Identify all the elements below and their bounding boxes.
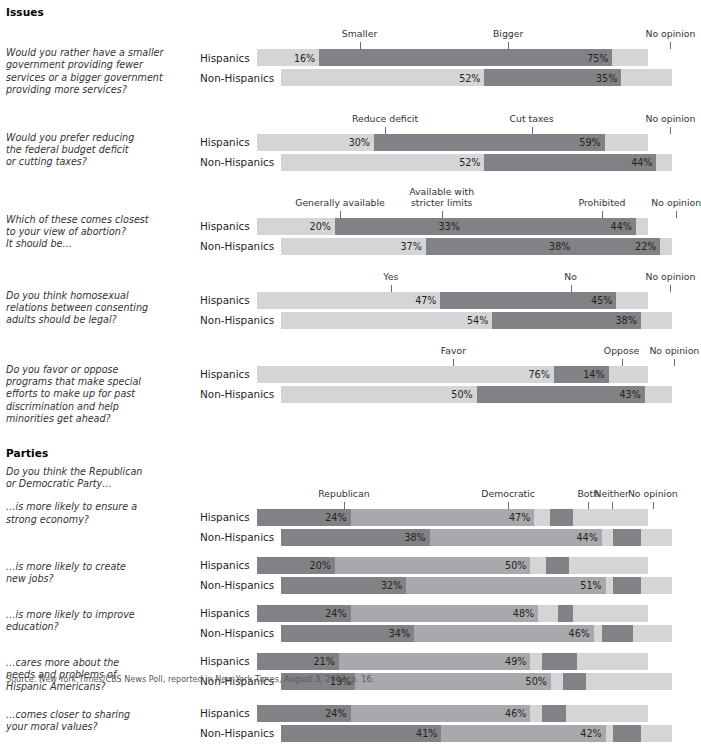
chart-row: Non-Hispanics52%44% bbox=[200, 154, 616, 171]
bar-segment bbox=[538, 605, 558, 622]
stacked-bar: 30%59% bbox=[257, 134, 648, 151]
segment-value: 43% bbox=[619, 389, 640, 400]
category-label: Reduce deficit bbox=[352, 114, 418, 125]
chart-column: YesNoNo opinionHispanics47%45%Non-Hispan… bbox=[200, 268, 616, 329]
chart-row: Non-Hispanics52%35% bbox=[200, 69, 616, 86]
source-footnote: Source: New York Times/CBS News Poll, re… bbox=[6, 674, 374, 684]
row-label: Hispanics bbox=[200, 511, 257, 523]
bar-segment: 21% bbox=[257, 653, 339, 670]
spacer bbox=[0, 426, 622, 439]
spacer bbox=[0, 642, 622, 651]
category-tick bbox=[676, 211, 677, 218]
bar-segment bbox=[563, 673, 586, 690]
category-tick bbox=[588, 502, 589, 509]
category-tick bbox=[453, 359, 454, 366]
bar-segment bbox=[606, 577, 614, 594]
segment-value: 35% bbox=[596, 72, 617, 83]
segment-value: 20% bbox=[310, 221, 331, 232]
bar-segment bbox=[606, 725, 614, 742]
category-tick bbox=[391, 285, 392, 292]
chart-column: Generally availableAvailable withstricte… bbox=[200, 184, 616, 255]
question-block: …comes closer to sharingyour moral value… bbox=[0, 703, 622, 742]
spacer bbox=[0, 546, 622, 555]
question-block: Would you rather have a smallergovernmen… bbox=[0, 25, 622, 97]
chart-column: FavorOpposeNo opinionHispanics76%14%Non-… bbox=[200, 342, 616, 403]
bar-segment bbox=[636, 218, 648, 235]
segment-value: 44% bbox=[576, 532, 597, 543]
segment-value: 34% bbox=[389, 628, 410, 639]
category-tick bbox=[360, 42, 361, 49]
question-block: Do you think homosexualrelations between… bbox=[0, 268, 622, 329]
category-header: YesNoNo opinion bbox=[200, 268, 616, 292]
chart-row: Hispanics47%45% bbox=[200, 292, 616, 309]
bar-segment bbox=[558, 605, 574, 622]
stacked-bar: 34%46% bbox=[281, 625, 672, 642]
row-label: Non-Hispanics bbox=[200, 156, 281, 168]
chart-row: Non-Hispanics38%44% bbox=[200, 529, 616, 546]
stacked-bar: 24%46% bbox=[257, 705, 648, 722]
bar-segment: 22% bbox=[574, 238, 660, 255]
segment-value: 59% bbox=[579, 137, 600, 148]
bar-segment bbox=[641, 577, 672, 594]
bar-segment bbox=[641, 725, 672, 742]
bar-segment: 50% bbox=[335, 557, 531, 574]
section-heading-parties: Parties bbox=[6, 447, 622, 459]
chart-column: SmallerBiggerNo opinionHispanics16%75%No… bbox=[200, 25, 616, 86]
category-tick bbox=[674, 359, 675, 366]
stacked-bar: 16%75% bbox=[257, 49, 648, 66]
segment-value: 38% bbox=[549, 241, 570, 252]
bar-segment: 33% bbox=[335, 218, 464, 235]
chart-column: RepublicanDemocraticBothNeitherNo opinio… bbox=[200, 466, 616, 546]
bar-segment: 59% bbox=[374, 134, 605, 151]
question-left-column: …comes closer to sharingyour moral value… bbox=[0, 703, 200, 734]
bar-segment: 38% bbox=[492, 312, 641, 329]
category-label: Smaller bbox=[342, 29, 377, 40]
question-left-column: …cares more about theneeds and problems … bbox=[0, 651, 200, 694]
question-text-q-moral-values: …comes closer to sharingyour moral value… bbox=[0, 709, 200, 734]
stacked-bar: 21%49% bbox=[257, 653, 648, 670]
spacer bbox=[0, 490, 200, 501]
question-text-q-gov-size: Would you rather have a smallergovernmen… bbox=[0, 47, 200, 97]
segment-value: 37% bbox=[400, 241, 421, 252]
chart-row: Hispanics76%14% bbox=[200, 366, 616, 383]
bar-segment: 54% bbox=[281, 312, 492, 329]
chart-row: Non-Hispanics37%38%22% bbox=[200, 238, 616, 255]
category-tick bbox=[571, 285, 572, 292]
bar-segment bbox=[542, 705, 565, 722]
bar-segment bbox=[530, 705, 542, 722]
category-tick bbox=[508, 42, 509, 49]
bar-segment: 50% bbox=[355, 673, 551, 690]
stacked-bar: 20%50% bbox=[257, 557, 648, 574]
bar-segment bbox=[633, 625, 672, 642]
stacked-bar: 24%48% bbox=[257, 605, 648, 622]
bar-segment bbox=[542, 653, 577, 670]
question-left-column: …is more likely to createnew jobs? bbox=[0, 555, 200, 586]
segment-value: 41% bbox=[416, 728, 437, 739]
category-tick bbox=[670, 285, 671, 292]
bar-segment bbox=[641, 312, 672, 329]
category-label: Cut taxes bbox=[510, 114, 554, 125]
chart-row: Hispanics24%48% bbox=[200, 605, 616, 622]
chart-row: Non-Hispanics54%38% bbox=[200, 312, 616, 329]
category-tick bbox=[340, 211, 341, 218]
chart-row: Hispanics20%50% bbox=[200, 557, 616, 574]
bar-segment bbox=[641, 529, 672, 546]
segment-value: 45% bbox=[591, 295, 612, 306]
chart-row: Non-Hispanics41%42% bbox=[200, 725, 616, 742]
question-text-q-deficit-taxes: Would you prefer reducingthe federal bud… bbox=[0, 132, 200, 169]
row-label: Non-Hispanics bbox=[200, 240, 281, 252]
spacer bbox=[200, 466, 616, 485]
row-label: Non-Hispanics bbox=[200, 388, 281, 400]
bar-segment bbox=[530, 653, 542, 670]
stacked-bar: 41%42% bbox=[281, 725, 672, 742]
category-tick bbox=[612, 502, 613, 509]
bar-segment bbox=[546, 557, 569, 574]
question-left-column: …is more likely to improveeducation? bbox=[0, 603, 200, 634]
bar-segment: 47% bbox=[351, 509, 535, 526]
row-label: Non-Hispanics bbox=[200, 579, 281, 591]
question-text-q-strong-economy: …is more likely to ensure astrong econom… bbox=[0, 501, 200, 526]
spacer bbox=[0, 255, 622, 268]
bar-segment bbox=[613, 725, 640, 742]
category-header: RepublicanDemocraticBothNeitherNo opinio… bbox=[200, 485, 616, 509]
segment-value: 52% bbox=[459, 72, 480, 83]
